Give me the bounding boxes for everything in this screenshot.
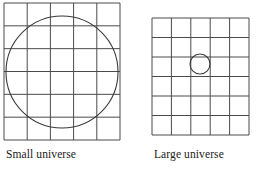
large-universe-caption: Large universe [154,148,224,160]
universe-comparison-figure: Small universe Large [0,0,276,175]
large-universe-diagram [0,0,276,150]
large-universe-grid [152,18,249,135]
